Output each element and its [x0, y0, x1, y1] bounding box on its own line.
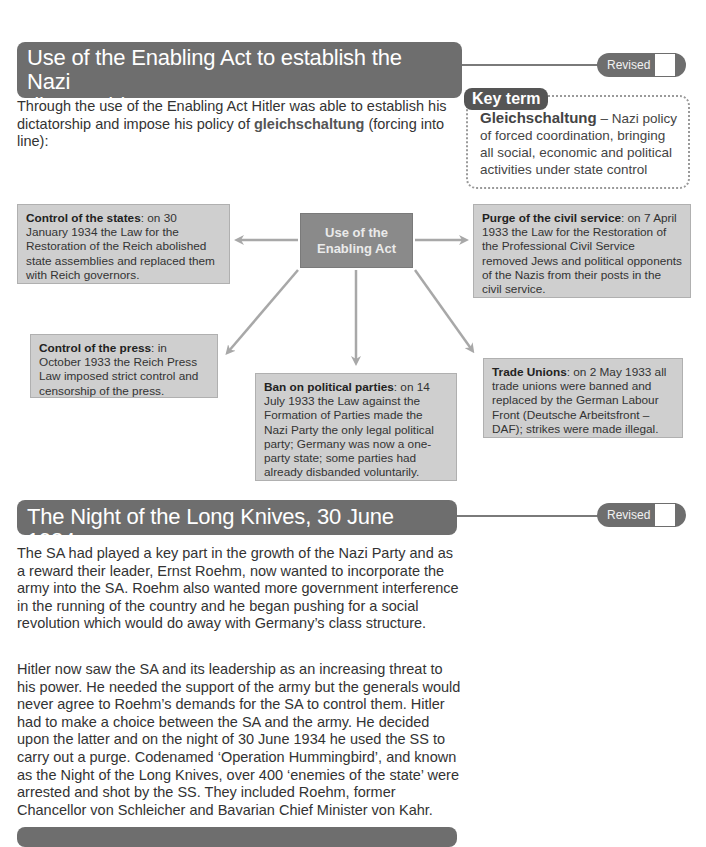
center-node-line-2: Enabling Act	[317, 241, 396, 257]
next-section-header	[17, 827, 457, 847]
revised-tab: Revised	[597, 503, 686, 527]
diagram-box-unions: Trade Unions: on 2 May 1933 all trade un…	[483, 358, 683, 438]
center-node-line-1: Use of the	[317, 225, 396, 241]
section-title-long-knives: The Night of the Long Knives, 30 June 19…	[17, 500, 457, 535]
long-knives-paragraph-1: The SA had played a key part in the grow…	[17, 545, 462, 633]
box-heading: Control of the states	[26, 211, 141, 225]
diagram-box-civil-service: Purge of the civil service: on 7 April 1…	[473, 204, 691, 298]
diagram-center-node: Use of the Enabling Act	[300, 213, 413, 268]
arrow-to-press	[228, 270, 298, 352]
diagram-box-states: Control of the states: on 30 January 193…	[17, 204, 230, 284]
diagram-box-parties: Ban on political parties: on 14 July 193…	[255, 373, 457, 481]
revised-label: Revised	[597, 508, 654, 522]
box-heading: Trade Unions	[492, 365, 567, 379]
box-heading: Control of the press	[39, 341, 151, 355]
diagram-box-press: Control of the press: in October 1933 th…	[30, 334, 218, 398]
box-heading: Purge of the civil service	[482, 211, 621, 225]
revised-checkbox[interactable]	[654, 503, 676, 527]
arrow-to-unions	[415, 270, 472, 350]
box-heading: Ban on political parties	[264, 380, 394, 394]
box-text: : on 14 July 1933 the Law against the Fo…	[264, 380, 434, 479]
long-knives-paragraph-2: Hitler now saw the SA and its leadership…	[17, 661, 462, 819]
